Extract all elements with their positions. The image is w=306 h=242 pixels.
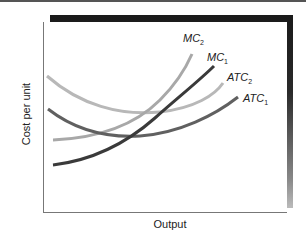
label-mc2: MC2 (183, 32, 204, 46)
plot-area (0, 0, 306, 242)
y-axis-label: Cost per unit (20, 74, 32, 154)
label-mc1: MC1 (207, 51, 228, 65)
label-atc1: ATC1 (243, 92, 268, 106)
curve-mc2 (53, 54, 192, 140)
x-axis-label: Output (140, 218, 200, 230)
curve-atc1 (48, 97, 238, 136)
label-atc2: ATC2 (227, 71, 252, 85)
curve-mc1 (53, 66, 214, 165)
